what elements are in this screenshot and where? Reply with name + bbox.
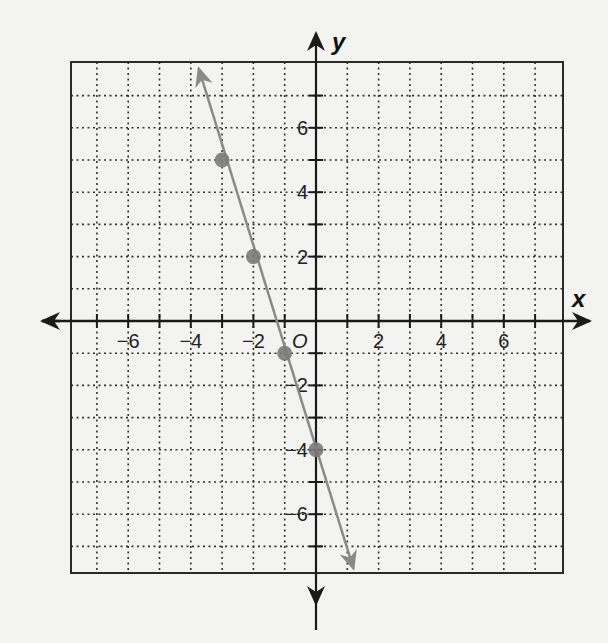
data-point	[277, 346, 292, 361]
x-tick-label: −6	[117, 330, 140, 352]
x-tick-label: 6	[498, 330, 509, 352]
y-tick-label: −6	[285, 503, 308, 525]
y-tick-label: 2	[297, 246, 308, 268]
y-axis-label: y	[331, 28, 347, 55]
y-tick-label: −4	[285, 439, 308, 461]
data-point	[215, 153, 230, 168]
coordinate-plane: −6−4−2246642−2−4−6 x y O	[0, 0, 608, 643]
origin-label: O	[292, 330, 308, 352]
x-tick-label: −2	[242, 330, 265, 352]
y-tick-label: 6	[297, 117, 308, 139]
x-tick-label: 2	[373, 330, 384, 352]
y-tick-label: 4	[297, 181, 308, 203]
x-tick-label: −4	[179, 330, 202, 352]
x-axis-label: x	[570, 285, 587, 312]
data-point	[246, 249, 261, 264]
data-point	[309, 442, 324, 457]
line-arrow-up	[199, 68, 276, 318]
x-tick-label: 4	[436, 330, 447, 352]
